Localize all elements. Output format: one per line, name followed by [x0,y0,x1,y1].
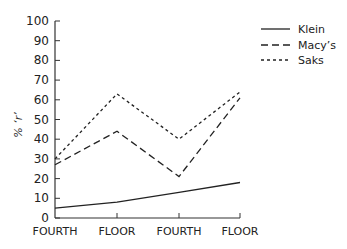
series-saks [55,92,240,159]
x-tick-label: FLOOR [221,225,258,238]
series-klein [55,183,240,209]
x-tick-label: FOURTH [33,225,78,238]
y-axis: 0102030405060708090100 [26,14,60,225]
series-lines [55,92,240,208]
y-tick-label: 10 [34,191,49,205]
x-tick-label: FLOOR [98,225,135,238]
legend-label: Klein [298,23,325,36]
line-chart: 0102030405060708090100 FOURTHFLOORFOURTH… [0,0,347,249]
y-tick-label: 90 [34,34,49,48]
y-tick-label: 0 [41,211,49,225]
y-tick-label: 30 [34,152,49,166]
y-tick-label: 100 [26,14,49,28]
y-tick-label: 40 [34,132,49,146]
y-axis-label: % ‘r’ [12,112,25,138]
y-tick-label: 20 [34,172,49,186]
series-macys [55,98,240,177]
legend: KleinMacy’sSaks [261,23,336,67]
x-tick-label: FOURTH [157,225,202,238]
y-tick-label: 80 [34,53,49,67]
y-tick-label: 60 [34,93,49,107]
legend-label: Saks [298,54,324,67]
x-axis: FOURTHFLOORFOURTHFLOOR [33,213,259,238]
legend-label: Macy’s [298,39,336,52]
y-tick-label: 70 [34,73,49,87]
y-tick-label: 50 [34,113,49,127]
